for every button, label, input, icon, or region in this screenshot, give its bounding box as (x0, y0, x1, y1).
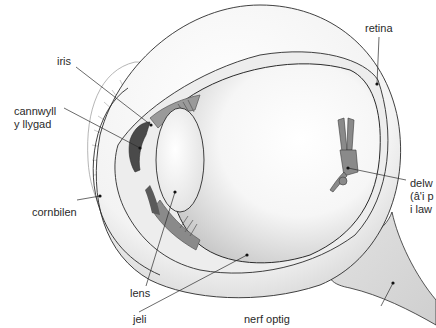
label-iris: iris (57, 55, 71, 68)
label-pupil-line2: y llygad (14, 118, 51, 131)
label-vitreous: jeli (133, 313, 146, 326)
label-image-line2: (â'i p (410, 190, 434, 203)
label-image-line1: delw (410, 177, 433, 190)
label-retina: retina (365, 22, 393, 35)
lens-shape (156, 108, 204, 212)
label-image-line3: i law (410, 203, 432, 216)
label-pupil-line1: cannwyll (14, 105, 56, 118)
label-cornea: cornbilen (32, 206, 77, 219)
label-optic-nerve: nerf optig (244, 313, 290, 326)
eye-diagram (0, 0, 436, 328)
label-lens: lens (130, 287, 150, 300)
